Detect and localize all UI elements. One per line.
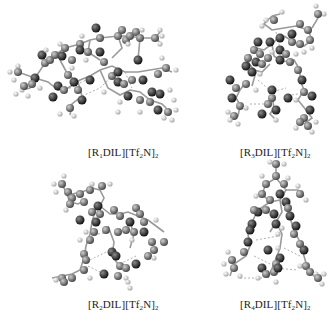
caption-text: DIL][Tf <box>103 298 140 310</box>
molecule-structure-r1 <box>0 0 180 140</box>
caption-r4: [R4DIL][Tf2N]2 <box>240 298 311 310</box>
caption-r1: [R1DIL][Tf2N]2 <box>88 146 159 158</box>
caption-sub: 2 <box>155 304 159 312</box>
caption-text: N] <box>143 298 155 310</box>
caption-text: DIL][Tf <box>103 146 140 158</box>
molecule-structure-r3 <box>200 0 332 140</box>
caption-text: DIL][Tf <box>255 146 292 158</box>
caption-text: N] <box>143 146 155 158</box>
molecule-panel-r4 <box>200 160 332 292</box>
molecule-panel-r1 <box>0 0 180 140</box>
caption-text: [R <box>88 298 99 310</box>
caption-text: N] <box>295 146 307 158</box>
molecule-structure-r2 <box>0 170 180 292</box>
caption-sub: 2 <box>307 304 311 312</box>
caption-text: DIL][Tf <box>255 298 292 310</box>
molecule-panel-r3 <box>200 0 332 140</box>
caption-text: N] <box>295 298 307 310</box>
molecule-panel-r2 <box>0 170 180 292</box>
caption-text: [R <box>240 146 251 158</box>
caption-sub: 2 <box>307 152 311 160</box>
caption-text: [R <box>88 146 99 158</box>
caption-r3: [R3DIL][Tf2N]2 <box>240 146 311 158</box>
caption-r2: [R2DIL][Tf2N]2 <box>88 298 159 310</box>
caption-text: [R <box>240 298 251 310</box>
caption-sub: 2 <box>155 152 159 160</box>
molecule-structure-r4 <box>200 160 332 292</box>
